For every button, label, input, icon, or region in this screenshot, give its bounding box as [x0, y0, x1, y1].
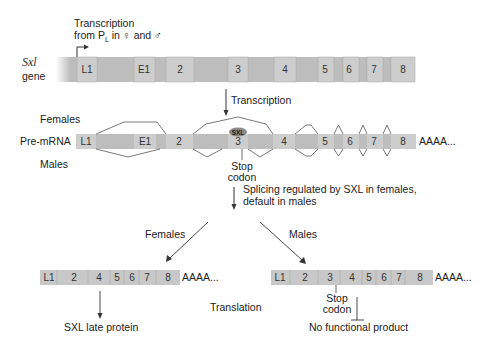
male-exon-label: 4: [349, 272, 355, 283]
pre-mrna-label: Pre-mRNA: [20, 135, 71, 147]
translation-label: Translation: [210, 301, 262, 313]
pre-mrna-polya: AAAA...: [419, 135, 456, 147]
sxl-splicing-diagram: Transcription from PL in ♀ and ♂ Sxl gen…: [0, 0, 479, 351]
pre-exon-label: 7: [371, 136, 377, 147]
promoter-arrowhead-icon: [84, 45, 89, 50]
male-product-label: No functional product: [309, 321, 408, 333]
sxl-badge-label: SXL: [232, 129, 245, 136]
gene-exon-label: L1: [81, 64, 93, 75]
gene-exon-label: 3: [235, 64, 241, 75]
male-mrna-polya: AAAA...: [435, 271, 472, 283]
males-label: Males: [40, 158, 68, 170]
gene-exon-label: 4: [282, 64, 288, 75]
female-exon-label: 8: [165, 272, 171, 283]
female-translation-arrowhead-icon: [98, 313, 103, 319]
pre-exon-label: E1: [139, 136, 152, 147]
gene-exon-label: 7: [371, 64, 377, 75]
male-splice-L1-2: [96, 149, 160, 157]
male-exon-label: L1: [274, 272, 286, 283]
male-stop-label-line2: codon: [323, 303, 352, 315]
pre-exon-label: L1: [80, 136, 92, 147]
female-mrna: L1 2 4 5 6 7 8 AAAA... SXL late protein: [40, 270, 219, 333]
pre-exon-label: 4: [281, 136, 287, 147]
splice-3-4: [248, 149, 273, 157]
transcription-label: Transcription: [231, 94, 291, 106]
male-exon-label: 6: [381, 272, 387, 283]
female-splice-L1-2: [96, 122, 166, 134]
splicing-label-line2: default in males: [243, 195, 317, 207]
gene-exon-label: 5: [322, 64, 328, 75]
gene-bar-fade-left: [56, 57, 70, 82]
pre-exon-label: 6: [347, 136, 353, 147]
splicing-label-line1: Splicing regulated by SXL in females,: [243, 183, 417, 195]
pre-exon-label: 3: [235, 136, 241, 147]
stop-codon-label-line2: codon: [228, 171, 257, 183]
gene-exon-label: 6: [346, 64, 352, 75]
female-exon-label: L1: [43, 272, 55, 283]
gene-exon-label: 2: [177, 64, 183, 75]
female-exon-label: 5: [114, 272, 120, 283]
gene-section: Transcription from PL in ♀ and ♂ Sxl gen…: [22, 17, 416, 82]
transcription-arrowhead-icon: [224, 110, 229, 116]
splicing-arrowhead-icon: [232, 204, 237, 210]
male-exon-label: 3: [327, 272, 333, 283]
male-exon-label: 2: [302, 272, 308, 283]
gene-exon-label: 8: [400, 64, 406, 75]
female-exon-label: 4: [96, 272, 102, 283]
male-exon-label: 5: [366, 272, 372, 283]
females-label: Females: [40, 113, 80, 125]
pre-mrna-section: Females Pre-mRNA Males L1 E1 2 3 4 5 6 7…: [20, 113, 456, 183]
male-exon-label: 8: [417, 272, 423, 283]
promoter-label-line2: from PL in ♀ and ♂: [74, 29, 162, 43]
male-mrna: L1 2 3 4 5 6 7 8 AAAA... Stop codon No f…: [271, 270, 472, 333]
male-branch-label: Males: [289, 228, 317, 240]
male-splice-2-3: [193, 149, 222, 157]
promoter-label-line1: Transcription: [74, 17, 134, 29]
gene-name-label: Sxl: [22, 55, 37, 69]
pre-exon-label: 5: [322, 136, 328, 147]
female-mrna-polya: AAAA...: [182, 271, 219, 283]
gene-exon-label: E1: [138, 64, 151, 75]
gene-label: gene: [22, 70, 46, 82]
female-branch-label: Females: [145, 228, 185, 240]
male-exon-label: 7: [396, 272, 402, 283]
promoter-arrow-icon: [77, 47, 85, 58]
female-product-label: SXL late protein: [64, 321, 138, 333]
female-branch-arrowhead-icon: [166, 255, 172, 262]
pre-exon-label: 2: [176, 136, 182, 147]
female-exon-label: 6: [129, 272, 135, 283]
female-exon-label: 2: [71, 272, 77, 283]
female-exon-label: 7: [144, 272, 150, 283]
pre-exon-label: 8: [400, 136, 406, 147]
